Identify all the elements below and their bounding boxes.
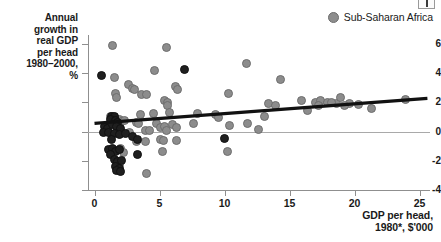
scatter-chart: Annual growth in real GDP per head 1980–… (0, 0, 441, 242)
x-tick-label: 0 (80, 198, 110, 209)
page-corner-marker (418, 0, 435, 9)
x-tick-label: 25 (405, 198, 435, 209)
x-tick-label: 10 (210, 198, 240, 209)
corner-tick-icon (426, 0, 428, 7)
x-axis-caption: GDP per head, 1980*, $'000 (243, 209, 433, 233)
x-tick-label: 5 (145, 198, 175, 209)
y-axis-title: Annual growth in real GDP per head 1980–… (2, 12, 78, 82)
trend-line (88, 35, 430, 191)
legend-marker-icon (328, 12, 339, 23)
x-tick-label: 15 (275, 198, 305, 209)
legend: Sub-Saharan Africa (328, 11, 433, 23)
legend-label-sub-saharan-africa: Sub-Saharan Africa (344, 11, 433, 23)
x-tick-label: 20 (340, 198, 370, 209)
trend-line-path (95, 98, 428, 123)
